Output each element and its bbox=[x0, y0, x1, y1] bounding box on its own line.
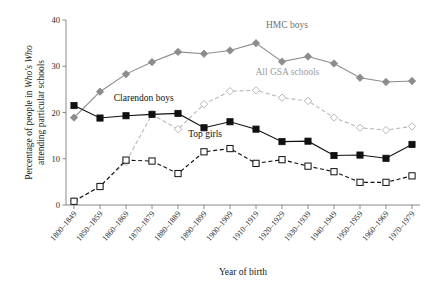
data-point-marker bbox=[408, 77, 415, 84]
data-point-marker bbox=[304, 53, 311, 60]
series-annotations: HMC boysAll GSA schoolsClarendon boysTop… bbox=[114, 20, 320, 140]
data-point-marker bbox=[383, 179, 389, 185]
y-tick-label: 20 bbox=[52, 108, 61, 118]
data-point-marker bbox=[331, 152, 337, 158]
data-point-marker bbox=[201, 149, 207, 155]
data-point-marker bbox=[278, 58, 285, 65]
series-annotation: Top girls bbox=[188, 129, 222, 139]
data-point-marker bbox=[279, 139, 285, 145]
x-axis-title: Year of birth bbox=[219, 267, 267, 277]
data-point-marker bbox=[122, 70, 129, 77]
data-point-marker bbox=[356, 74, 363, 81]
data-point-marker bbox=[331, 169, 337, 175]
series-annotation: All GSA schools bbox=[255, 67, 319, 77]
data-series-group bbox=[70, 39, 415, 204]
data-point-marker bbox=[279, 157, 285, 163]
data-point-marker bbox=[253, 160, 259, 166]
data-point-marker bbox=[382, 78, 389, 85]
data-point-marker bbox=[357, 152, 363, 158]
data-point-marker bbox=[408, 123, 415, 130]
y-tick-label: 30 bbox=[52, 61, 61, 71]
series-clarendon-boys bbox=[71, 102, 415, 161]
chart-container: Percentage of people in Who's Whoattendi… bbox=[0, 0, 430, 289]
data-point-marker bbox=[409, 141, 415, 147]
y-tick-label: 10 bbox=[52, 154, 61, 164]
data-point-marker bbox=[227, 145, 233, 151]
series-all-gsa-schools bbox=[70, 87, 415, 205]
y-axis-title-line2: attending particular schools bbox=[36, 60, 46, 165]
data-point-marker bbox=[97, 115, 103, 121]
data-point-marker bbox=[252, 87, 259, 94]
data-point-marker bbox=[305, 163, 311, 169]
data-point-marker bbox=[71, 102, 77, 108]
data-point-marker bbox=[175, 170, 181, 176]
data-point-marker bbox=[123, 113, 129, 119]
data-point-marker bbox=[278, 94, 285, 101]
data-point-marker bbox=[148, 58, 155, 65]
data-point-marker bbox=[409, 173, 415, 179]
data-point-marker bbox=[200, 50, 207, 57]
data-point-marker bbox=[356, 124, 363, 131]
data-point-marker bbox=[383, 155, 389, 161]
data-point-marker bbox=[226, 47, 233, 54]
series-annotation: HMC boys bbox=[266, 20, 308, 30]
data-point-marker bbox=[97, 183, 103, 189]
data-point-marker bbox=[305, 138, 311, 144]
data-point-marker bbox=[304, 97, 311, 104]
data-point-marker bbox=[252, 39, 259, 46]
y-tick-label: 0 bbox=[56, 200, 60, 210]
series-annotation: Clarendon boys bbox=[114, 93, 174, 103]
data-point-marker bbox=[253, 126, 259, 132]
y-axis-title-line1: Percentage of people in Who's Who bbox=[24, 45, 34, 180]
data-point-marker bbox=[174, 48, 181, 55]
y-axis: 010203040 bbox=[52, 15, 67, 210]
x-axis-title-text: Year of birth bbox=[219, 267, 267, 277]
data-point-marker bbox=[330, 114, 337, 121]
data-point-marker bbox=[227, 119, 233, 125]
data-point-marker bbox=[123, 157, 129, 163]
x-axis: 1800–18491850–18591860–18691870–18791880… bbox=[48, 205, 420, 243]
x-tick-label: 1970–1979 bbox=[386, 210, 416, 243]
data-point-marker bbox=[175, 110, 181, 116]
data-point-marker bbox=[71, 198, 77, 204]
series-hmc-boys bbox=[70, 39, 415, 121]
y-tick-label: 40 bbox=[52, 15, 61, 25]
data-point-marker bbox=[149, 158, 155, 164]
y-axis-title: Percentage of people in Who's Whoattendi… bbox=[24, 45, 46, 180]
data-point-marker bbox=[382, 126, 389, 133]
line-chart: Percentage of people in Who's Whoattendi… bbox=[0, 0, 430, 289]
data-point-marker bbox=[357, 179, 363, 185]
data-point-marker bbox=[226, 88, 233, 95]
data-point-marker bbox=[149, 111, 155, 117]
data-point-marker bbox=[330, 60, 337, 67]
